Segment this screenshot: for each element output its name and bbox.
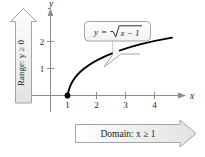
y-tick-label-2: 2 [40, 37, 45, 47]
callout-tail-fill [113, 41, 121, 54]
function-curve-group [65, 38, 172, 99]
y-axis-arrowhead [48, 8, 54, 16]
tick-labels-group: 1 2 3 4 1 2 [40, 37, 158, 111]
x-tick-label-1: 1 [65, 100, 70, 110]
x-axis-arrowhead [178, 93, 186, 99]
range-banner: Range: y ≥ 0 [11, 9, 37, 104]
callout-equals: = [102, 27, 107, 37]
x-tick-label-4: 4 [152, 100, 157, 110]
graph-figure: 1 2 3 4 1 2 x y y = x − 1 [0, 0, 205, 157]
graph-canvas: 1 2 3 4 1 2 x y y = x − 1 [0, 0, 205, 157]
curve-endpoint-dot [65, 93, 71, 99]
callout-radicand: x − 1 [120, 28, 140, 38]
y-tick-label-1: 1 [40, 64, 45, 74]
range-banner-label: Range: y ≥ 0 [16, 39, 26, 86]
y-axis-label: y [48, 0, 54, 9]
x-tick-label-3: 3 [123, 100, 128, 110]
callout-lhs: y [93, 27, 98, 37]
sqrt-curve-path [68, 38, 173, 96]
domain-banner-label: Domain: x ≥ 1 [100, 129, 155, 139]
x-axis-label: x [189, 91, 195, 101]
domain-banner: Domain: x ≥ 1 [76, 120, 197, 147]
x-tick-label-2: 2 [94, 100, 99, 110]
